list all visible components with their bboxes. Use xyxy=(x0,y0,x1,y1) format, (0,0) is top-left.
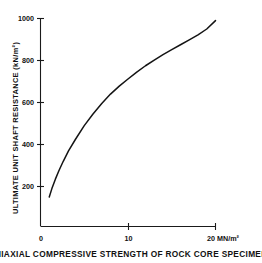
y-tick-label-600: 600 xyxy=(22,98,34,107)
y-tick-label-800: 800 xyxy=(22,56,34,65)
x-axis-caption: UNIAXIAL COMPRESSIVE STRENGTH OF ROCK CO… xyxy=(0,249,262,259)
y-tick-label-200: 200 xyxy=(22,182,34,191)
chart-plot-area: ULTIMATE UNIT SHAFT RESISTANCE (kN/m²) 1… xyxy=(0,0,262,263)
chart-figure: ULTIMATE UNIT SHAFT RESISTANCE (kN/m²) 1… xyxy=(0,0,262,263)
y-axis-title: ULTIMATE UNIT SHAFT RESISTANCE (kN/m²) xyxy=(11,42,20,214)
x-tick-label-0: 0 xyxy=(39,234,43,243)
y-tick-label-1000: 1000 xyxy=(18,14,34,23)
x-axis-units-label: 20 MN/m² xyxy=(207,234,240,243)
x-tick-label-10: 10 xyxy=(125,234,133,243)
y-tick-label-400: 400 xyxy=(22,140,34,149)
data-curve-line xyxy=(49,21,215,197)
